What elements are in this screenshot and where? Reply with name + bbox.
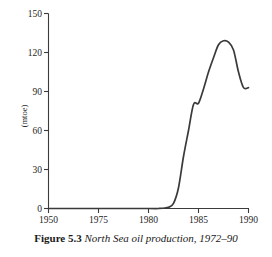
x-axis-tick-labels: 1950 1975 1980 1985 1990 <box>39 215 258 225</box>
y-tick-label-90: 90 <box>33 87 43 97</box>
data-series-line <box>49 41 249 209</box>
caption-text: North Sea oil production, 1972–90 <box>84 232 237 244</box>
y-axis-tick-labels: 150 120 90 60 30 0 <box>28 9 43 214</box>
x-tick-label-1985: 1985 <box>189 215 208 225</box>
y-tick-label-30: 30 <box>33 165 43 175</box>
y-tick-label-150: 150 <box>28 9 43 19</box>
x-tick-label-1990: 1990 <box>239 215 258 225</box>
y-axis-ticks <box>44 14 49 209</box>
figure-container: 150 120 90 60 30 0 1950 1975 1980 1985 <box>0 0 272 257</box>
y-tick-label-120: 120 <box>28 48 43 58</box>
y-tick-label-0: 0 <box>37 204 42 214</box>
y-tick-label-60: 60 <box>33 126 43 136</box>
x-tick-label-1975: 1975 <box>89 215 108 225</box>
chart-plot-area: 150 120 90 60 30 0 1950 1975 1980 1985 <box>0 0 272 228</box>
figure-caption: Figure 5.3 North Sea oil production, 197… <box>0 231 272 245</box>
caption-label: Figure 5.3 <box>34 232 81 244</box>
line-chart: 150 120 90 60 30 0 1950 1975 1980 1985 <box>0 0 272 228</box>
x-tick-label-1980: 1980 <box>139 215 158 225</box>
x-tick-label-1950: 1950 <box>39 215 58 225</box>
y-axis-title: (mtoe) <box>19 105 29 128</box>
